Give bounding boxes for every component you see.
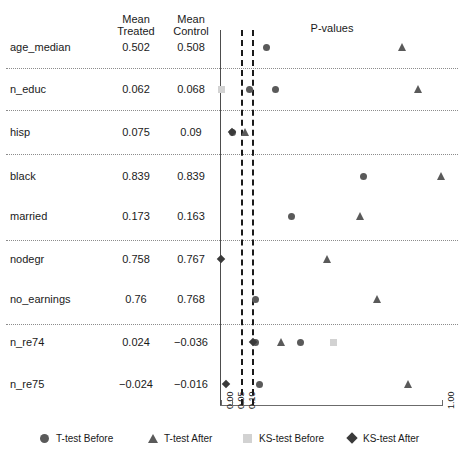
variable-name: nodegr	[10, 250, 105, 268]
table-row: black0.8390.839	[0, 167, 468, 185]
row-separator	[6, 154, 458, 155]
legend-label: T-test After	[164, 430, 212, 448]
table-row: married0.1730.163	[0, 207, 468, 225]
row-separator	[6, 240, 458, 241]
mean-control-value: 0.839	[163, 167, 219, 185]
x-axis-tick	[442, 400, 443, 406]
balance-plot: Mean Treated Mean Control P-values 0.000…	[0, 0, 468, 458]
column-header-mean-control: Mean Control	[163, 13, 219, 37]
table-row: n_educ0.0620.068	[0, 80, 468, 98]
mean-treated-value: −0.024	[108, 375, 164, 393]
mean-control-value: −0.016	[163, 375, 219, 393]
mean-treated-value: 0.075	[108, 123, 164, 141]
plot-title: P-values	[252, 22, 412, 34]
mean-treated-value: 0.839	[108, 167, 164, 185]
mean-treated-value: 0.76	[108, 290, 164, 308]
variable-name: hisp	[10, 123, 105, 141]
legend-label: KS-test After	[363, 430, 419, 448]
table-row: n_re740.024−0.036	[0, 333, 468, 351]
x-axis-tick-label: 1.00	[446, 391, 456, 409]
mean-control-value: 0.068	[163, 80, 219, 98]
legend-label: T-test Before	[56, 430, 113, 448]
table-row: age_median0.5020.508	[0, 38, 468, 56]
x-axis-line	[220, 405, 442, 406]
x-axis-tick	[243, 400, 244, 406]
legend-square-icon	[243, 434, 252, 443]
mean-control-value: 0.163	[163, 207, 219, 225]
x-axis-tick	[221, 400, 222, 406]
row-separator	[6, 68, 458, 69]
mean-control-value: 0.767	[163, 250, 219, 268]
mean-control-value: 0.768	[163, 290, 219, 308]
legend-circle-icon	[40, 434, 49, 443]
mean-control-value: 0.09	[163, 123, 219, 141]
variable-name: n_educ	[10, 80, 105, 98]
table-row: hisp0.0750.09	[0, 123, 468, 141]
table-row: nodegr0.7580.767	[0, 250, 468, 268]
table-row: no_earnings0.760.768	[0, 290, 468, 308]
x-axis-tick-label: 0.10	[247, 391, 257, 409]
mean-treated-value: 0.062	[108, 80, 164, 98]
legend-label: KS-test Before	[259, 430, 324, 448]
legend-triangle-icon	[148, 434, 158, 443]
x-axis-tick-label: 0.00	[225, 391, 235, 409]
x-axis-tick-label: 0.05	[236, 391, 246, 409]
mean-treated-value: 0.758	[108, 250, 164, 268]
variable-name: n_re75	[10, 375, 105, 393]
variable-name: married	[10, 207, 105, 225]
legend-diamond-icon	[346, 432, 357, 443]
mean-treated-value: 0.024	[108, 333, 164, 351]
mean-treated-value: 0.173	[108, 207, 164, 225]
mean-treated-value: 0.502	[108, 38, 164, 56]
variable-name: n_re74	[10, 333, 105, 351]
variable-name: black	[10, 167, 105, 185]
table-row: n_re75−0.024−0.016	[0, 375, 468, 393]
legend: T-test BeforeT-test AfterKS-test BeforeK…	[0, 430, 468, 450]
variable-name: age_median	[10, 38, 105, 56]
x-axis-tick	[232, 400, 233, 406]
mean-control-value: 0.508	[163, 38, 219, 56]
row-separator	[6, 324, 458, 325]
mean-control-value: −0.036	[163, 333, 219, 351]
row-separator	[6, 110, 458, 111]
column-header-mean-treated: Mean Treated	[108, 13, 164, 37]
variable-name: no_earnings	[10, 290, 105, 308]
